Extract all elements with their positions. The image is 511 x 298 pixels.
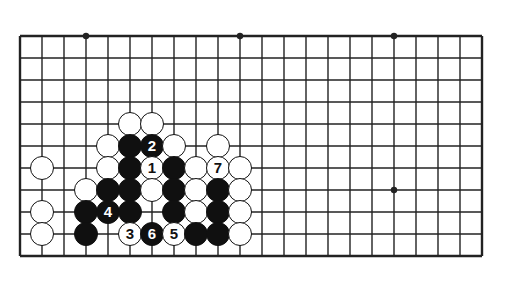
stone-black — [118, 156, 142, 180]
stone-black — [162, 200, 186, 224]
star-point — [83, 33, 89, 39]
stone-white — [30, 200, 54, 224]
stone-white — [96, 134, 120, 158]
stone-white — [30, 222, 54, 246]
stone-white — [140, 112, 164, 136]
numbered-stone-black-4: 4 — [96, 200, 120, 224]
stone-black — [206, 222, 230, 246]
stone-black — [118, 200, 142, 224]
numbered-stone-white-3: 3 — [118, 222, 142, 246]
stone-white — [228, 200, 252, 224]
stone-white — [228, 178, 252, 202]
stone-white — [162, 134, 186, 158]
go-board-grid — [0, 0, 511, 298]
stone-white — [118, 112, 142, 136]
stone-white — [184, 156, 208, 180]
star-point — [237, 33, 243, 39]
stone-white — [30, 156, 54, 180]
stone-black — [206, 178, 230, 202]
stone-white — [228, 156, 252, 180]
numbered-stone-white-1: 1 — [140, 156, 164, 180]
stone-white — [74, 178, 98, 202]
star-point — [391, 33, 397, 39]
stone-black — [206, 200, 230, 224]
star-point — [391, 187, 397, 193]
stone-white — [184, 178, 208, 202]
stone-black — [118, 134, 142, 158]
stone-white — [206, 134, 230, 158]
stone-black — [162, 178, 186, 202]
numbered-stone-white-7: 7 — [206, 156, 230, 180]
numbered-stone-black-6: 6 — [140, 222, 164, 246]
stone-white — [184, 200, 208, 224]
stone-black — [74, 200, 98, 224]
stone-white — [140, 178, 164, 202]
numbered-stone-white-5: 5 — [162, 222, 186, 246]
stone-black — [96, 178, 120, 202]
stone-black — [74, 222, 98, 246]
numbered-stone-black-2: 2 — [140, 134, 164, 158]
stone-black — [118, 178, 142, 202]
stone-white — [228, 222, 252, 246]
stone-black — [162, 156, 186, 180]
stone-white — [96, 156, 120, 180]
go-board-figure: 2174365 — [0, 0, 511, 298]
stone-black — [184, 222, 208, 246]
